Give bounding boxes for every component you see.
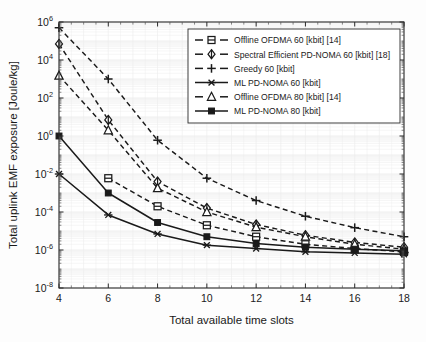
xtick-label: 14 (300, 292, 312, 304)
ytick-label: 104 (37, 52, 53, 65)
ytick-label: 106 (37, 14, 53, 27)
legend-label: Offline OFDMA 60 [kbit] [14] (234, 35, 341, 45)
xtick-label: 16 (349, 292, 361, 304)
ytick-label: 102 (37, 90, 53, 103)
marker-square-filled (253, 241, 259, 247)
xtick-label: 6 (105, 292, 111, 304)
legend-label: Offline OFDMA 80 [kbit] [14] (234, 92, 341, 102)
legend-label: ML PD-NOMA 60 [kbit] (234, 78, 321, 88)
legend-label: Spectral Efficient PD-NOMA 60 [kbit] [18… (234, 50, 390, 60)
legend-label: Greedy 60 [kbit] (234, 64, 295, 74)
ytick-label: 10-4 (35, 204, 53, 217)
chart-canvas: 468101214161810610410210010-210-410-610-… (0, 0, 426, 342)
marker-square-filled (303, 244, 309, 250)
marker-square-filled (204, 234, 210, 240)
xtick-label: 18 (398, 292, 410, 304)
ytick-label: 10-6 (35, 242, 53, 255)
xtick-label: 10 (201, 292, 213, 304)
xtick-label: 8 (155, 292, 161, 304)
ytick-label: 100 (37, 128, 53, 141)
marker-square-filled (209, 108, 215, 114)
ytick-label: 10-2 (35, 166, 53, 179)
legend: Offline OFDMA 60 [kbit] [14]Spectral Eff… (188, 29, 400, 123)
xtick-label: 12 (250, 292, 262, 304)
x-axis-title: Total available time slots (169, 314, 294, 326)
marker-square-filled (155, 220, 161, 226)
xtick-label: 4 (56, 292, 62, 304)
marker-square-filled (105, 190, 111, 196)
figure-container: 468101214161810610410210010-210-410-610-… (0, 0, 426, 342)
ytick-label: 10-8 (35, 280, 53, 293)
y-axis-title: Total uplink EMF exposure [Joule/kg] (7, 61, 19, 249)
marker-square-filled (352, 246, 358, 252)
legend-label: ML PD-NOMA 80 [kbit] (234, 106, 321, 116)
